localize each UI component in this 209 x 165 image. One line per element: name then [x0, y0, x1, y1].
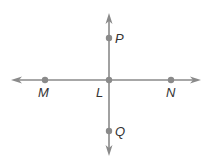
label-M: M	[38, 85, 49, 100]
label-N: N	[166, 85, 176, 100]
point-N	[168, 77, 174, 83]
label-L: L	[96, 85, 103, 100]
geometry-diagram: P M L N Q	[0, 0, 209, 165]
vertical-line	[106, 13, 113, 156]
label-Q: Q	[115, 124, 125, 139]
point-P	[106, 35, 112, 41]
label-P: P	[115, 31, 124, 46]
point-L	[106, 77, 112, 83]
point-Q	[106, 128, 112, 134]
point-M	[42, 77, 48, 83]
